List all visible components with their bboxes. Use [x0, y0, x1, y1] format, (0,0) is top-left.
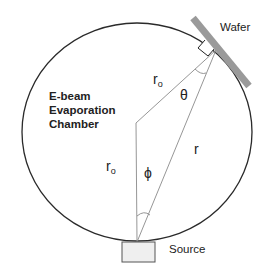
- chamber-label-line-1: E-beam: [49, 90, 91, 102]
- r0-left-label: ro: [106, 158, 116, 176]
- source-box: [122, 242, 155, 262]
- geometry-lines: [136, 50, 216, 242]
- r-label: r: [194, 141, 199, 157]
- r0-source-line: [136, 123, 137, 242]
- r0-top-label: ro: [153, 71, 163, 89]
- evaporation-geometry-diagram: Wafer Source E-beam Evaporation Chamber …: [0, 0, 269, 280]
- r0-wafer-line: [136, 50, 216, 123]
- r-line: [137, 50, 216, 242]
- source-label: Source: [169, 243, 205, 255]
- phi-label: ϕ: [144, 165, 152, 181]
- theta-label: θ: [180, 87, 188, 103]
- chamber-label-line-2: Evaporation: [49, 104, 115, 116]
- chamber-label-line-3: Chamber: [49, 118, 99, 130]
- theta-arc: [195, 69, 206, 74]
- wafer-label: Wafer: [220, 21, 250, 33]
